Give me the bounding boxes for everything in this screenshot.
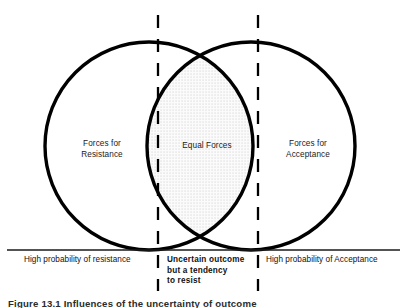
axis-label-center-line1: Uncertain outcome (167, 255, 245, 266)
region-label-right-line2: Acceptance (268, 150, 348, 161)
figure-container: Forces for Resistance Equal Forces Force… (0, 0, 413, 308)
axis-label-center-line2: but a tendency (167, 266, 245, 277)
region-label-right-line1: Forces for (268, 139, 348, 150)
region-label-center-line1: Equal Forces (164, 141, 250, 152)
region-label-center: Equal Forces (164, 141, 250, 152)
region-label-right: Forces for Acceptance (268, 139, 348, 160)
axis-label-right: High probability of Acceptance (266, 255, 378, 266)
region-label-left-line2: Resistance (62, 150, 142, 161)
region-label-left: Forces for Resistance (62, 139, 142, 160)
axis-label-center-line3: to resist (167, 276, 245, 287)
axis-label-left: High probability of resistance (24, 255, 131, 266)
axis-label-center: Uncertain outcome but a tendency to resi… (167, 255, 245, 287)
region-label-left-line1: Forces for (62, 139, 142, 150)
figure-caption: Figure 13.1 Influences of the uncertaint… (8, 298, 408, 308)
